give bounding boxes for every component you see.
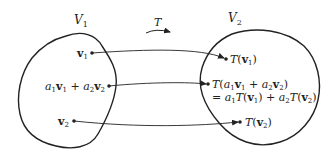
label-v1: V1 [74,13,88,29]
text-tcombo-expanded: = a1T(v1) + a2T(v2) [212,91,317,105]
point-tv2 [238,120,242,124]
label-t: T [154,16,163,29]
arrow-v1 [92,50,224,58]
text-v2: v2 [57,115,69,129]
arrow-v2 [74,121,238,126]
point-tcombo [206,82,210,86]
point-tv1 [224,57,228,61]
text-tcombo: T(a1v1 + a2v2) [212,78,288,92]
map-arrow-icon [146,30,170,33]
text-v1: v1 [76,47,88,61]
text-combo: a1v1 + a2v2 [45,80,105,94]
linear-map-diagram: V1 V2 T v1 a1v1 + a2v2 v2 T(v1) T(a1v1 +… [0,0,336,156]
text-tv1: T(v1) [230,53,257,67]
label-v2: V2 [228,11,242,27]
text-tv2: T(v2) [245,116,272,130]
arrow-combo [109,83,206,86]
